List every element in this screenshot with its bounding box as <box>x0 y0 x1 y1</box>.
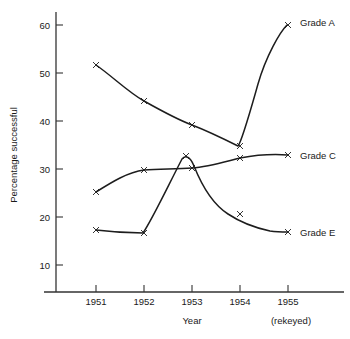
y-tick-label-60: 60 <box>39 20 50 31</box>
y-tick-label-10: 10 <box>39 260 50 271</box>
grade-a-point-1951 <box>93 62 99 68</box>
y-axis-title: Percentage successful <box>8 107 19 203</box>
y-axis-tick-labels: 60 50 40 30 20 10 <box>39 20 50 271</box>
grade-a-point-1952 <box>141 98 147 104</box>
grade-a-label: Grade A <box>300 17 336 28</box>
x-tick-label-1953: 1953 <box>181 296 202 307</box>
grade-e-label: Grade E <box>300 227 335 238</box>
y-tick-label-50: 50 <box>39 68 50 79</box>
y-tick-label-20: 20 <box>39 212 50 223</box>
series-grade-c: Grade C <box>93 150 336 195</box>
grade-a-line <box>96 25 287 146</box>
line-chart: Percentage successful 60 50 40 30 20 10 <box>0 0 350 339</box>
y-tick-label-40: 40 <box>39 116 50 127</box>
x-tick-label-1952: 1952 <box>133 296 154 307</box>
grade-c-markers <box>93 152 291 195</box>
grade-c-point-1951 <box>93 189 99 195</box>
x-tick-label-1955: 1955 <box>277 296 298 307</box>
grade-a-point-1955 <box>285 22 291 28</box>
y-tick-label-30: 30 <box>39 164 50 175</box>
x-tick-label-1951: 1951 <box>85 296 106 307</box>
grade-c-line <box>96 155 288 192</box>
x-axis-ticks <box>96 285 288 292</box>
grade-e-point-1954 <box>237 211 243 217</box>
grade-a-point-1953 <box>189 122 195 128</box>
grade-c-label: Grade C <box>300 150 336 161</box>
series-grade-e: Grade E <box>93 153 335 238</box>
y-axis-ticks <box>56 25 63 265</box>
series-grade-a: Grade A <box>93 17 336 149</box>
x-tick-label-1954: 1954 <box>229 296 250 307</box>
grade-e-point-peak <box>183 153 189 159</box>
x-axis-title: Year <box>182 315 201 326</box>
rekeyed-note: (rekeyed) <box>271 315 311 326</box>
grade-e-markers <box>93 153 291 236</box>
x-axis-tick-labels: 1951 1952 1953 1954 1955 <box>85 296 298 307</box>
chart-canvas: Percentage successful 60 50 40 30 20 10 <box>0 0 350 339</box>
